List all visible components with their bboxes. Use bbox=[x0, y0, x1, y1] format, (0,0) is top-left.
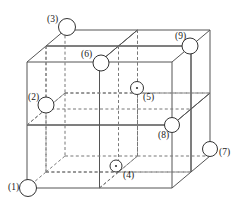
marker-label-4: (4) bbox=[123, 171, 134, 181]
figure-canvas: (1)(2)(3)(4)(5)(6)(7)(8)(9) bbox=[0, 0, 243, 210]
marker-label-8: (8) bbox=[158, 131, 169, 141]
marker-circle-3[interactable] bbox=[59, 19, 76, 36]
marker-center-dot-4 bbox=[115, 165, 117, 167]
cube-edge bbox=[172, 172, 191, 188]
cube-edge bbox=[46, 156, 65, 172]
marker-label-2: (2) bbox=[28, 93, 39, 103]
cube-wireframe-diagram bbox=[0, 0, 243, 210]
marker-circle-2[interactable] bbox=[38, 97, 54, 113]
marker-circle-7[interactable] bbox=[203, 142, 218, 157]
marker-center-dot-5 bbox=[136, 87, 138, 89]
marker-label-7: (7) bbox=[219, 148, 230, 158]
marker-circle-6[interactable] bbox=[93, 55, 109, 71]
marker-label-9: (9) bbox=[175, 32, 186, 42]
marker-circle-1[interactable] bbox=[20, 180, 37, 197]
cube-edge bbox=[27, 46, 46, 62]
cube-edge bbox=[191, 156, 210, 172]
marker-label-3: (3) bbox=[47, 15, 58, 25]
marker-label-1: (1) bbox=[8, 183, 19, 193]
marker-label-5: (5) bbox=[143, 93, 154, 103]
marker-label-6: (6) bbox=[81, 50, 92, 60]
